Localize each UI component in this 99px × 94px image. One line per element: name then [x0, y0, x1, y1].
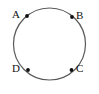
- point-label-b: B: [76, 10, 83, 21]
- vertex-dot-c: [70, 68, 74, 72]
- vertex-dot-b: [70, 15, 74, 19]
- geometry-figure: A B C D: [0, 0, 99, 94]
- point-label-d: D: [12, 63, 20, 74]
- point-label-c: C: [76, 63, 83, 74]
- vertex-dot-d: [26, 68, 30, 72]
- point-label-a: A: [12, 9, 20, 20]
- vertex-dot-group: [25, 14, 74, 72]
- circle-outline: [14, 8, 86, 80]
- vertex-dot-a: [25, 14, 29, 18]
